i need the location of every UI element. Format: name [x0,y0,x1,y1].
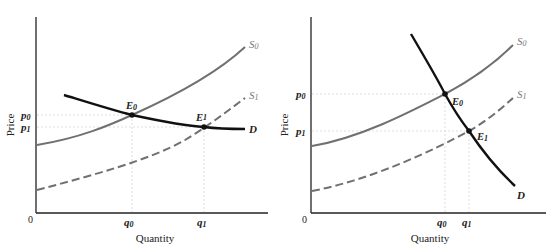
equilibrium-point-e1 [201,124,207,130]
y-axis-label: Price [4,114,16,137]
quantity-tick-q1: q1 [197,216,207,229]
x-axis-label: Quantity [136,232,175,244]
curve-label-s0: S0 [249,38,259,51]
y-axis-label: Price [278,114,290,137]
point-label-e0: E0 [451,96,463,108]
guide-lines [312,94,469,212]
quantity-tick-q0: q0 [437,216,447,229]
x-axis-label: Quantity [411,232,450,244]
curve-label-s1: S1 [249,89,259,102]
curve-label-d: D [516,189,525,201]
point-label-e0: E0 [125,100,137,112]
point-label-e1: E1 [476,131,488,143]
curve-label-d: D [248,123,257,135]
price-tick-p1: p1 [295,125,306,138]
equilibrium-point-e1 [466,128,472,134]
point-label-e1: E1 [195,112,207,123]
quantity-tick-q1: q1 [462,216,472,229]
left-panel: Price 0 Quantity p0 p1 q0 q1 E0 E1 S0 S1… [4,17,268,244]
equilibrium-point-e0 [129,112,135,118]
origin-label: 0 [302,214,307,225]
quantity-tick-q0: q0 [124,216,134,229]
demand-curve-d [64,95,245,129]
equilibrium-point-e0 [442,91,448,97]
curve-label-s1: S1 [517,88,527,101]
right-panel: Price 0 Quantity p0 p1 q0 q1 E0 E1 S0 S1… [278,17,546,244]
supply-curve-s1 [312,98,513,191]
price-tick-p0: p0 [295,88,306,101]
guide-lines [37,115,204,212]
price-tick-p1: p1 [20,121,31,134]
curve-label-s0: S0 [517,35,527,48]
supply-demand-figure: Price 0 Quantity p0 p1 q0 q1 E0 E1 S0 S1… [0,0,554,252]
origin-label: 0 [28,214,33,225]
